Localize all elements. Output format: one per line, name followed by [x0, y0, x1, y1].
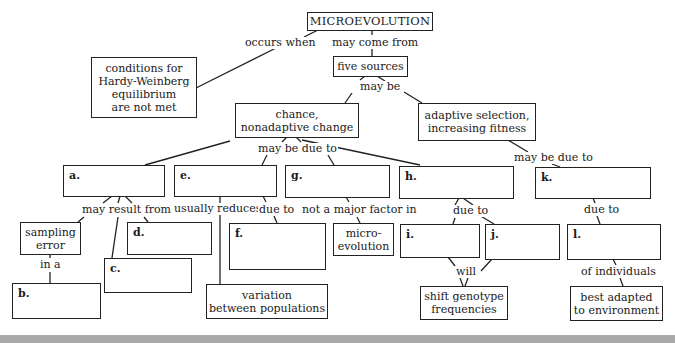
link-usually-reduces: usually reduces	[173, 203, 262, 215]
variation-line-2: between populations	[209, 302, 325, 315]
node-microevolution-label: MICROEVOLUTION	[310, 15, 430, 28]
blank-box-a[interactable]: a.	[63, 165, 165, 197]
five-sources-label: five sources	[337, 60, 403, 73]
node-variation: variation between populations	[206, 284, 328, 319]
blank-box-k[interactable]: k.	[535, 167, 651, 199]
link-may-be: may be	[359, 81, 401, 93]
blank-letter-f: f.	[235, 227, 243, 240]
node-best-adapted: best adapted to environment	[570, 286, 663, 321]
blank-box-d[interactable]: d.	[127, 222, 212, 255]
link-may-be-due-to-chance: may be due to	[257, 143, 338, 155]
shift-line-1: shift genotype	[424, 290, 504, 303]
node-five-sources: five sources	[333, 56, 408, 77]
node-chance: chance, nonadaptive change	[235, 103, 359, 138]
node-microevolution: MICROEVOLUTION	[307, 12, 433, 31]
node-conditions: conditions for Hardy-Weinberg equilibriu…	[91, 57, 197, 118]
conditions-line-1: conditions for	[105, 62, 182, 75]
blank-box-h[interactable]: h.	[399, 166, 514, 199]
link-may-come-from: may come from	[331, 37, 419, 49]
conditions-line-3: equilibrium	[112, 88, 177, 101]
blank-letter-l: l.	[573, 228, 581, 241]
blank-letter-d: d.	[133, 226, 145, 239]
blank-box-e[interactable]: e.	[174, 165, 277, 197]
link-will: will	[455, 266, 477, 278]
adaptive-line-1: adaptive selection,	[425, 109, 530, 122]
best-line-2: to environment	[574, 304, 659, 317]
link-may-result-from: may result from	[81, 204, 172, 216]
chance-line-1: chance,	[275, 108, 318, 121]
blank-box-j[interactable]: j.	[485, 224, 560, 260]
node-shift-genotype: shift genotype frequencies	[420, 286, 508, 320]
blank-letter-i: i.	[406, 228, 414, 241]
blank-letter-e: e.	[180, 169, 191, 182]
chance-line-2: nonadaptive change	[241, 121, 354, 134]
micro-evolution-line-2: evolution	[338, 240, 390, 253]
node-sampling-error: sampling error	[20, 222, 81, 255]
blank-box-g[interactable]: g.	[285, 165, 390, 198]
blank-box-i[interactable]: i.	[400, 224, 480, 258]
blank-box-l[interactable]: l.	[567, 224, 661, 260]
link-in-a: in a	[39, 259, 62, 271]
blank-box-b[interactable]: b.	[12, 283, 101, 319]
blank-box-f[interactable]: f.	[229, 223, 326, 270]
link-occurs-when: occurs when	[244, 37, 317, 49]
conditions-line-4: are not met	[112, 101, 177, 114]
best-line-1: best adapted	[580, 291, 652, 304]
conditions-line-2: Hardy-Weinberg	[98, 75, 189, 88]
link-due-to-h: due to	[452, 205, 489, 217]
sampling-line-1: sampling	[25, 226, 76, 239]
shift-line-2: frequencies	[431, 303, 496, 316]
link-due-to-f: due to	[258, 204, 295, 216]
link-may-be-due-to-adaptive: may be due to	[513, 152, 594, 164]
blank-letter-b: b.	[18, 287, 30, 300]
concept-map: MICROEVOLUTION conditions for Hardy-Wein…	[0, 0, 675, 343]
micro-evolution-line-1: micro-	[346, 227, 382, 240]
blank-letter-h: h.	[405, 170, 417, 183]
sampling-line-2: error	[36, 239, 65, 252]
blank-letter-g: g.	[291, 169, 303, 182]
blank-letter-c: c.	[110, 262, 121, 275]
blank-letter-k: k.	[541, 171, 552, 184]
blank-letter-a: a.	[69, 169, 80, 182]
node-adaptive: adaptive selection, increasing fitness	[418, 103, 536, 141]
node-micro-evolution: micro- evolution	[333, 223, 394, 256]
link-not-major-factor: not a major factor in	[301, 204, 418, 216]
blank-box-c[interactable]: c.	[104, 258, 192, 293]
blank-letter-j: j.	[491, 228, 499, 241]
link-of-individuals: of individuals	[580, 266, 657, 278]
link-due-to-k: due to	[583, 204, 620, 216]
bottom-gray-bar	[0, 335, 675, 343]
adaptive-line-2: increasing fitness	[428, 122, 527, 135]
variation-line-1: variation	[242, 289, 292, 302]
